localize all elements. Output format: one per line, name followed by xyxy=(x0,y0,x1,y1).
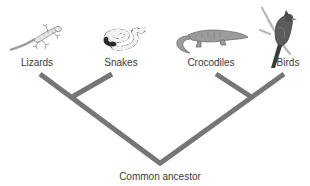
taxon-label-birds: Birds xyxy=(277,57,300,69)
lizard-icon xyxy=(8,22,64,54)
taxon-label-lizards: Lizards xyxy=(21,57,53,69)
branch-birds-to-root xyxy=(159,74,284,164)
crocodile-icon xyxy=(174,26,250,56)
branch-crocodiles xyxy=(216,74,253,98)
taxon-label-crocodiles: Crocodiles xyxy=(187,57,234,69)
snake-icon xyxy=(100,26,146,52)
cladogram: Lizards Snakes Crocodiles Birds Common a… xyxy=(0,0,310,186)
taxon-label-snakes: Snakes xyxy=(104,57,137,69)
branch-snakes xyxy=(72,74,112,97)
root-label-common-ancestor: Common ancestor xyxy=(119,171,201,183)
branch-lizards-to-root xyxy=(40,74,161,164)
